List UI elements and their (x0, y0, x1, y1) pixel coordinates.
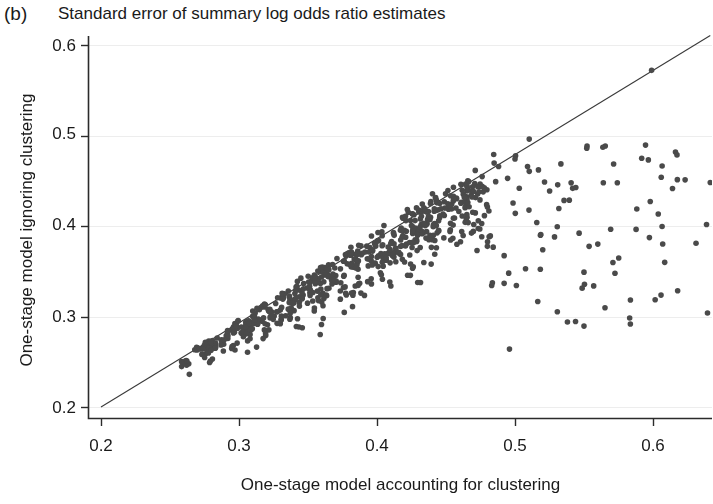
y-tick-label-0: 0.6 (30, 37, 76, 55)
y-tick-label-4: 0.2 (30, 399, 76, 417)
x-tick-label-3: 0.5 (487, 436, 543, 456)
x-axis-title: One-stage model accounting for clusterin… (88, 474, 713, 496)
x-tick-label-1: 0.3 (211, 436, 267, 456)
y-tick-label-1: 0.5 (30, 125, 76, 143)
scatter-plot-canvas (0, 0, 713, 504)
x-tick-label-2: 0.4 (349, 436, 405, 456)
x-tick-label-0: 0.2 (73, 436, 129, 456)
figure-panel-b: (b) Standard error of summary log odds r… (0, 0, 713, 504)
x-tick-label-4: 0.6 (625, 436, 681, 456)
y-tick-label-3: 0.3 (30, 308, 76, 326)
y-tick-label-2: 0.4 (30, 216, 76, 234)
